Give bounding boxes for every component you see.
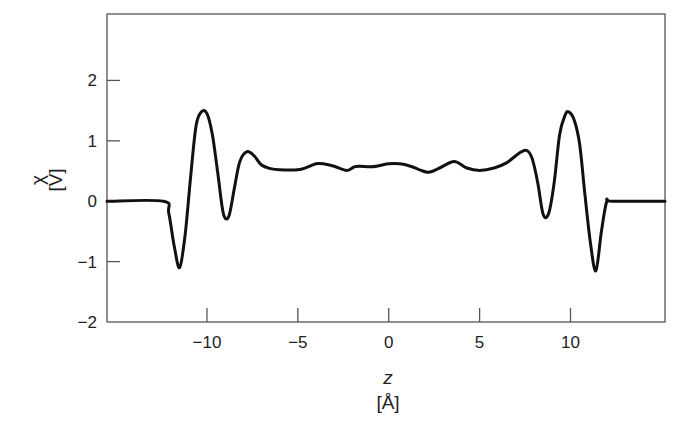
x-tick-label: −5 <box>288 333 307 352</box>
y-tick-label: 2 <box>88 71 97 90</box>
chi-curve <box>107 110 665 270</box>
y-tick-label: 1 <box>88 132 97 151</box>
y-axis-unit: [V] <box>45 168 66 191</box>
y-tick-label: 0 <box>88 192 97 211</box>
y-tick-label: −1 <box>78 253 97 272</box>
x-tick-label: 0 <box>384 333 393 352</box>
y-tick-label: −2 <box>78 313 97 332</box>
x-tick-label: 5 <box>475 333 484 352</box>
x-axis-label: z <box>382 367 393 388</box>
chart: −10−50510 −2−1012 z [Å] χ [V] <box>0 0 674 428</box>
x-axis-ticks: −10−50510 <box>193 308 580 352</box>
x-tick-label: 10 <box>561 333 580 352</box>
x-axis-unit: [Å] <box>376 392 399 413</box>
x-tick-label: −10 <box>193 333 222 352</box>
